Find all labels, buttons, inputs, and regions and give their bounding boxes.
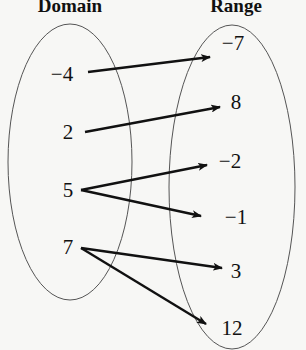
domain-value: 7 <box>63 237 74 258</box>
range-value: 12 <box>222 318 243 339</box>
domain-value: 5 <box>63 180 74 201</box>
mapping-arrow <box>81 190 201 216</box>
range-oval <box>169 25 295 349</box>
range-value: −1 <box>225 207 247 228</box>
mapping-arrows <box>81 57 222 324</box>
mapping-arrow <box>85 107 220 132</box>
domain-title: Domain <box>38 0 102 15</box>
range-value: −2 <box>219 151 241 172</box>
range-value: −7 <box>222 33 244 54</box>
mapping-arrow <box>81 248 206 324</box>
range-value: 8 <box>231 92 242 113</box>
range-value: 3 <box>231 261 242 282</box>
mapping-diagram <box>0 0 306 350</box>
range-title: Range <box>210 0 262 15</box>
domain-value: −4 <box>51 64 73 85</box>
domain-value: 2 <box>63 122 74 143</box>
mapping-arrow <box>81 248 222 268</box>
mapping-arrow <box>81 165 207 190</box>
mapping-arrow <box>88 57 210 72</box>
